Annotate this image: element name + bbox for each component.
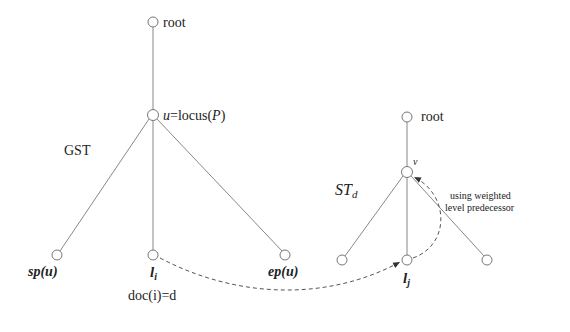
std-leaf-left-node bbox=[337, 255, 347, 265]
locus-label-eq: =locus( bbox=[170, 108, 212, 124]
locus-label-p: P bbox=[211, 108, 221, 123]
gst-label: GST bbox=[64, 143, 91, 158]
leaf-ep-node bbox=[280, 250, 290, 260]
gst-root-node bbox=[148, 17, 158, 27]
leaf-sp-node bbox=[52, 250, 62, 260]
annotation-line1: using weighted bbox=[450, 190, 511, 201]
locus-node-u bbox=[148, 110, 159, 121]
node-v-label: v bbox=[413, 156, 418, 167]
std-label-sub: d bbox=[352, 188, 358, 200]
locus-label-u: u bbox=[163, 108, 170, 123]
locus-label: u=locus(P) bbox=[163, 108, 226, 124]
std-tree: root v STd lj using weighted level prede… bbox=[335, 109, 515, 288]
leaf-li-node bbox=[148, 250, 158, 260]
edge-u-ep bbox=[157, 119, 282, 251]
leaf-sp-label: sp(u) bbox=[27, 264, 58, 280]
leaf-li-sub: i bbox=[154, 271, 157, 282]
diagram-canvas: root u=locus(P) GST sp(u) li doc(i)=d ep… bbox=[0, 0, 570, 332]
leaf-ep-label: ep(u) bbox=[268, 264, 298, 280]
leaf-lj-label: lj bbox=[403, 270, 410, 288]
annotation-line2: level predecessor bbox=[445, 202, 515, 213]
std-root-label: root bbox=[421, 109, 444, 124]
node-v bbox=[402, 167, 413, 178]
leaf-li-label: li bbox=[150, 264, 157, 282]
std-leaf-right-node bbox=[482, 255, 492, 265]
std-label-main: ST bbox=[335, 181, 353, 198]
locus-label-close: ) bbox=[221, 108, 226, 124]
edge-u-sp bbox=[60, 119, 149, 251]
std-root-node bbox=[402, 112, 412, 122]
doc-label: doc(i)=d bbox=[128, 288, 176, 304]
dashed-arrow-lj-to-v bbox=[413, 177, 441, 258]
edge-v-leaf-right bbox=[411, 176, 484, 256]
gst-root-label: root bbox=[163, 15, 186, 30]
std-label: STd bbox=[335, 181, 358, 200]
gst-tree: root u=locus(P) GST sp(u) li doc(i)=d ep… bbox=[27, 15, 298, 304]
std-leaf-lj-node bbox=[402, 255, 412, 265]
